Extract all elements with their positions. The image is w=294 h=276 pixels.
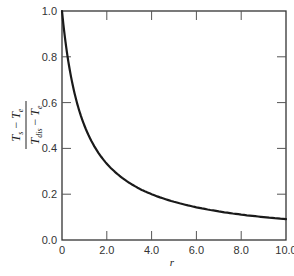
x-axis-label: r: [170, 256, 175, 268]
x-tick-label: 10.0: [275, 244, 294, 256]
y-axis-label: Ts − Te Tdis − Te: [9, 101, 44, 149]
plot-frame: [62, 11, 286, 240]
x-tick-labels: 02.04.06.08.010.0: [59, 244, 294, 256]
y-tick-label: 0.2: [42, 188, 57, 200]
x-tick-label: 4.0: [144, 244, 159, 256]
y-tick-label: 0.8: [42, 51, 57, 63]
y-tick-label: 1.0: [42, 5, 57, 17]
y-label-denominator: Tdis − Te: [28, 105, 44, 145]
y-tick-labels: 0.00.20.40.60.81.0: [42, 5, 57, 246]
x-tick-label: 6.0: [189, 244, 204, 256]
axis-ticks: [62, 11, 286, 240]
x-tick-label: 0: [59, 244, 65, 256]
y-tick-label: 0.0: [42, 234, 57, 246]
x-tick-label: 2.0: [99, 244, 114, 256]
y-label-numerator: Ts − Te: [9, 108, 25, 141]
x-tick-label: 8.0: [234, 244, 249, 256]
data-curve: [62, 11, 286, 219]
chart: 02.04.06.08.010.0 0.00.20.40.60.81.0 r T…: [0, 0, 294, 276]
y-tick-label: 0.4: [42, 142, 57, 154]
